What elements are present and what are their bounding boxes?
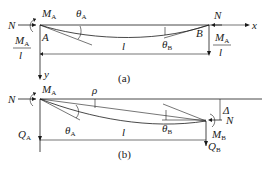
deflection-curve-a: [40, 25, 209, 38]
point-b-label: B: [196, 27, 203, 39]
shear-b-label: QB: [208, 140, 221, 154]
axial-force-label-left-b: N: [7, 93, 16, 105]
length-label-a: l: [122, 40, 125, 52]
svg-text:MA: MA: [214, 31, 229, 45]
y-axis-label: y: [43, 68, 49, 80]
reaction-right-fraction: MA l: [213, 31, 231, 58]
svg-text:MA: MA: [14, 34, 29, 48]
moment-label-a-b: MA: [41, 83, 56, 97]
figure-b: N MA θA ρ θB Δ N MB: [7, 83, 262, 161]
caption-b: (b): [118, 148, 131, 161]
axial-force-label-right: N: [213, 9, 222, 21]
chord-line-b: [40, 99, 206, 121]
beam-column-diagram: N MA x N θA θB A B y: [0, 0, 272, 171]
moment-label-a: MA: [41, 7, 56, 21]
reaction-left-fraction: MA l: [13, 34, 31, 61]
theta-a-label-b: θA: [65, 124, 75, 138]
figure-a: N MA x N θA θB A B y: [7, 7, 257, 85]
shear-a-label: QA: [18, 128, 31, 142]
axial-force-label-right-b: N: [225, 114, 234, 126]
theta-a-arc: [78, 26, 81, 39]
point-a-label: A: [41, 31, 49, 43]
length-label-b: l: [122, 126, 125, 138]
axial-force-label-left: N: [7, 19, 16, 31]
rho-label: ρ: [91, 84, 97, 96]
theta-a-label: θA: [76, 7, 86, 21]
svg-text:l: l: [219, 46, 222, 58]
svg-text:l: l: [19, 49, 22, 61]
tangent-a-b: [40, 99, 80, 120]
theta-b-label: θB: [162, 38, 172, 52]
x-axis-label: x: [251, 19, 257, 31]
caption-a: (a): [118, 72, 131, 85]
